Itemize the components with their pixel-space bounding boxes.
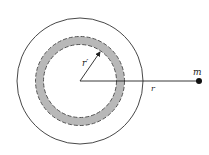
shell-radius-label: r′ <box>82 58 88 68</box>
mass-label: m <box>193 67 202 77</box>
distance-label: r <box>151 84 156 93</box>
point-mass <box>196 78 202 84</box>
diagram-canvas: r′ r m <box>0 0 209 155</box>
